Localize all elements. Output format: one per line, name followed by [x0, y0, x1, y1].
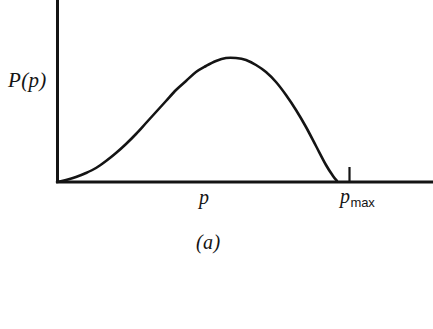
canvas-background: [0, 0, 433, 329]
pmax-subscript: max: [351, 195, 375, 210]
pmax-base: p: [340, 185, 350, 207]
pmax-tick-label: pmax: [340, 186, 375, 209]
y-axis-label: P(p): [8, 70, 47, 91]
plot-area: [0, 0, 433, 329]
figure-caption: (a): [196, 232, 221, 252]
x-axis-label: p: [199, 187, 209, 207]
figure-container: P(p) p pmax (a): [0, 0, 433, 329]
